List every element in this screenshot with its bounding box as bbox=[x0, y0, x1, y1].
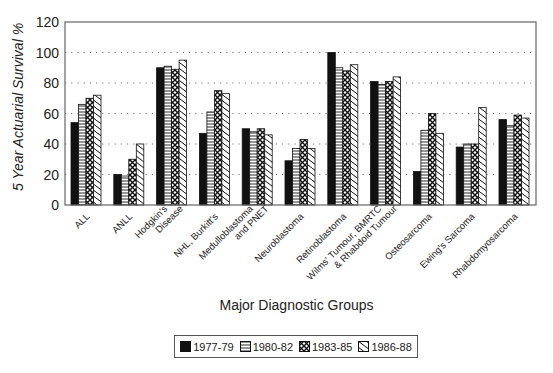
legend-item-1980-82: 1980-82 bbox=[240, 341, 293, 353]
bar bbox=[164, 66, 172, 205]
y-tick-label: 0 bbox=[51, 197, 59, 213]
bar bbox=[378, 85, 386, 205]
x-tick-label: ALL bbox=[72, 211, 92, 231]
bar bbox=[214, 91, 222, 205]
bar bbox=[507, 126, 515, 205]
bar bbox=[71, 123, 79, 205]
bar bbox=[257, 129, 265, 205]
bar bbox=[479, 107, 487, 205]
bar bbox=[371, 81, 379, 205]
bar bbox=[129, 159, 137, 205]
bar bbox=[157, 68, 165, 205]
bar-chart: 020406080100120 ALLANLLHodgkin'sDiseaseN… bbox=[0, 0, 553, 373]
bar bbox=[421, 130, 429, 205]
bar bbox=[293, 149, 301, 205]
legend-label: 1983-85 bbox=[312, 341, 352, 353]
legend-item-1986-88: 1986-88 bbox=[358, 341, 411, 353]
legend-item-1977-79: 1977-79 bbox=[180, 341, 233, 353]
bar bbox=[471, 144, 479, 205]
bar bbox=[428, 114, 436, 206]
legend-label: 1977-79 bbox=[193, 341, 233, 353]
legend-label: 1986-88 bbox=[371, 341, 411, 353]
diagonal-stripes-swatch-icon bbox=[358, 341, 369, 352]
bar bbox=[436, 133, 444, 205]
bar bbox=[335, 68, 343, 205]
y-axis-ticks: 020406080100120 bbox=[36, 14, 60, 213]
bar bbox=[86, 98, 94, 205]
bar bbox=[207, 112, 215, 205]
bar bbox=[199, 133, 207, 205]
y-tick-label: 120 bbox=[36, 14, 60, 30]
bar bbox=[308, 149, 316, 205]
bar bbox=[242, 129, 250, 205]
bar bbox=[464, 144, 472, 205]
bar bbox=[114, 175, 122, 206]
bar bbox=[328, 53, 336, 206]
crosshatch-swatch-icon bbox=[299, 341, 310, 352]
bar bbox=[522, 118, 530, 205]
legend-item-1983-85: 1983-85 bbox=[299, 341, 352, 353]
horizontal-stripes-swatch-icon bbox=[240, 341, 251, 352]
bar bbox=[413, 171, 421, 205]
bar bbox=[393, 77, 401, 205]
x-tick-label: ANLL bbox=[110, 211, 135, 236]
svg-text:ALL: ALL bbox=[72, 211, 92, 231]
y-tick-label: 60 bbox=[43, 106, 59, 122]
bar bbox=[350, 65, 358, 205]
y-tick-label: 20 bbox=[43, 167, 59, 183]
bar bbox=[172, 69, 180, 205]
y-tick-label: 100 bbox=[36, 45, 60, 61]
bars bbox=[71, 53, 529, 206]
legend-label: 1980-82 bbox=[253, 341, 293, 353]
bar bbox=[222, 94, 230, 205]
bar bbox=[285, 161, 293, 205]
x-axis-label: Major Diagnostic Groups bbox=[0, 297, 553, 313]
bar bbox=[265, 135, 273, 205]
bar bbox=[499, 120, 507, 205]
bar bbox=[456, 147, 464, 205]
bar bbox=[250, 132, 258, 205]
legend: 1977-79 1980-82 1983-85 1986-88 bbox=[174, 335, 418, 358]
bar bbox=[343, 71, 351, 205]
bar bbox=[514, 115, 522, 205]
bar bbox=[79, 104, 87, 205]
x-axis-labels: ALLANLLHodgkin'sDiseaseNHL, Burkitt'sMed… bbox=[72, 195, 520, 290]
svg-text:ANLL: ANLL bbox=[110, 211, 135, 236]
y-tick-label: 40 bbox=[43, 136, 59, 152]
bar bbox=[136, 144, 144, 205]
bar bbox=[94, 95, 102, 205]
bar bbox=[179, 60, 187, 205]
solid-swatch-icon bbox=[180, 341, 191, 352]
bar bbox=[386, 81, 394, 205]
y-axis-label: 5 Year Actuarial Survival % bbox=[10, 31, 26, 191]
bar bbox=[300, 139, 308, 205]
y-tick-label: 80 bbox=[43, 75, 59, 91]
bar bbox=[121, 176, 129, 205]
